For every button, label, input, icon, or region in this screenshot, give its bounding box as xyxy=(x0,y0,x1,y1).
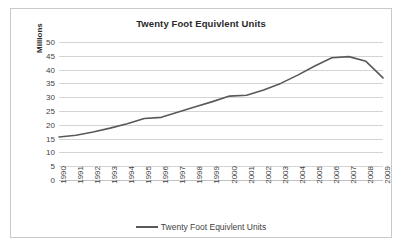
x-axis-tick: 1997 xyxy=(178,166,187,200)
y-axis-tick: 40 xyxy=(46,65,55,74)
chart-title: Twenty Foot Equivlent Units xyxy=(11,18,391,29)
chart-container: Twenty Foot Equivlent Units Millions 504… xyxy=(10,8,392,238)
chart-legend: Twenty Foot Equivlent Units xyxy=(11,222,391,232)
y-axis-tick: 50 xyxy=(46,38,55,47)
x-axis-tick: 1993 xyxy=(110,166,119,200)
x-axis-tick: 2007 xyxy=(349,166,358,200)
y-axis-tick: 30 xyxy=(46,93,55,102)
x-axis-tick: 2002 xyxy=(264,166,273,200)
x-axis-tick: 2006 xyxy=(332,166,341,200)
y-axis-tick-labels: 50454035302520151050 xyxy=(33,42,55,180)
x-axis-tick: 1998 xyxy=(195,166,204,200)
x-axis-tick: 1991 xyxy=(76,166,85,200)
y-axis-tick: 20 xyxy=(46,120,55,129)
y-axis-tick: 0 xyxy=(51,176,55,185)
y-axis-tick: 25 xyxy=(46,107,55,116)
y-axis-tick: 10 xyxy=(46,148,55,157)
x-axis-tick: 2009 xyxy=(383,166,392,200)
x-axis-tick: 1996 xyxy=(161,166,170,200)
x-axis-tick: 2003 xyxy=(281,166,290,200)
x-axis-tick: 1990 xyxy=(59,166,68,200)
legend-line-swatch xyxy=(136,226,158,228)
x-axis-tick: 2004 xyxy=(298,166,307,200)
legend-item-label: Twenty Foot Equivlent Units xyxy=(161,222,266,232)
y-axis-tick: 5 xyxy=(51,162,55,171)
y-axis-tick: 15 xyxy=(46,134,55,143)
x-axis-tick: 1992 xyxy=(93,166,102,200)
x-axis-tick: 2008 xyxy=(366,166,375,200)
x-axis-tick: 2001 xyxy=(247,166,256,200)
series-line-twenty-foot-equivlent-units xyxy=(59,42,383,180)
y-axis-tick: 35 xyxy=(46,79,55,88)
x-axis-tick: 1995 xyxy=(144,166,153,200)
x-axis-tick: 1994 xyxy=(127,166,136,200)
x-axis-tick-labels: 1990199119921993199419951996199719981999… xyxy=(59,183,383,223)
y-axis-tick: 45 xyxy=(46,51,55,60)
x-axis-tick: 2000 xyxy=(230,166,239,200)
plot-area xyxy=(59,42,383,180)
x-axis-tick: 2005 xyxy=(315,166,324,200)
x-axis-tick: 1999 xyxy=(212,166,221,200)
